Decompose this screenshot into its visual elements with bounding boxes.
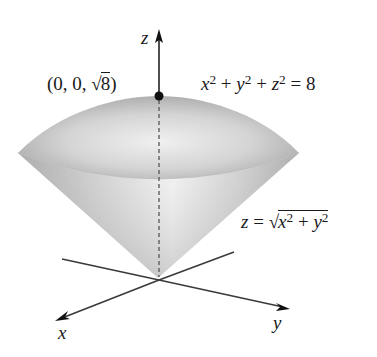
x-axis — [62, 280, 159, 318]
diagram-canvas: z (0, 0, √8) x2 + y2 + z2 = 8 z = √x2 + … — [0, 0, 377, 357]
sphere-equation: x2 + y2 + z2 = 8 — [201, 74, 315, 93]
z-axis-label: z — [141, 28, 148, 47]
x-axis-label: x — [58, 323, 66, 342]
top-point-marker — [155, 92, 164, 101]
surface-drawing — [0, 0, 377, 357]
point-label: (0, 0, √8) — [47, 72, 117, 93]
y-axis-label: y — [273, 313, 281, 332]
y-axis — [159, 280, 283, 307]
y-axis-arrow-icon — [276, 303, 290, 311]
cone-equation: z = √x2 + y2 — [241, 210, 328, 231]
